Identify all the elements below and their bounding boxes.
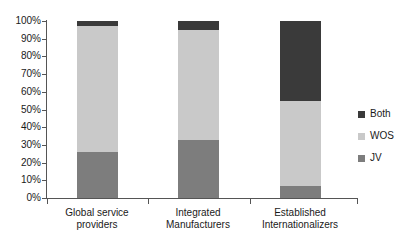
legend-swatch-icon <box>358 155 365 162</box>
legend-item-jv[interactable]: JV <box>358 147 415 169</box>
y-axis-tick-mark <box>42 74 47 75</box>
x-axis-line <box>46 198 358 199</box>
bar-1[interactable] <box>77 21 118 198</box>
x-axis-tick-mark <box>47 199 48 204</box>
x-axis-tick-mark <box>148 199 149 204</box>
legend-label: WOS <box>370 131 394 141</box>
y-axis-tick-mark <box>42 163 47 164</box>
y-axis-tick-mark <box>42 145 47 146</box>
y-axis-tick-label: 50% <box>1 105 41 115</box>
bar-segment-jv[interactable] <box>77 152 118 198</box>
y-axis-tick-label: 30% <box>1 140 41 150</box>
y-axis-tick-label: 90% <box>1 34 41 44</box>
legend-swatch-icon <box>358 111 365 118</box>
legend-label: JV <box>370 153 382 163</box>
legend-item-both[interactable]: Both <box>358 103 415 125</box>
plot-area <box>47 21 357 198</box>
y-axis-tick-label: 10% <box>1 175 41 185</box>
bar-segment-both[interactable] <box>178 21 219 30</box>
bar-segment-jv[interactable] <box>280 186 321 198</box>
bar-3[interactable] <box>280 21 321 198</box>
y-axis-tick-label: 0% <box>1 193 41 203</box>
y-axis-tick-label: 100% <box>1 16 41 26</box>
legend-label: Both <box>370 109 391 119</box>
x-axis-category-label-line: Internationalizers <box>240 219 360 231</box>
y-axis-tick-label: 80% <box>1 51 41 61</box>
y-axis-tick-label: 40% <box>1 122 41 132</box>
bar-segment-both[interactable] <box>280 21 321 101</box>
bar-segment-jv[interactable] <box>178 140 219 198</box>
y-axis-tick-mark <box>42 180 47 181</box>
x-axis-tick-mark <box>357 199 358 204</box>
x-axis-category-label: EstablishedInternationalizers <box>240 207 360 231</box>
bar-2[interactable] <box>178 21 219 198</box>
stacked-bar-chart: 100%90%80%70%60%50%40%30%20%10%0% BothWO… <box>0 0 415 243</box>
y-axis-tick-label: 20% <box>1 158 41 168</box>
x-axis-category-label-line: Established <box>240 207 360 219</box>
bar-segment-wos[interactable] <box>280 101 321 186</box>
y-axis-tick-label: 70% <box>1 69 41 79</box>
bar-segment-wos[interactable] <box>178 30 219 140</box>
y-axis-tick-mark <box>42 110 47 111</box>
y-axis-tick-mark <box>42 127 47 128</box>
bar-segment-both[interactable] <box>77 21 118 26</box>
chart-legend: BothWOSJV <box>358 103 415 169</box>
y-axis-tick-mark <box>42 39 47 40</box>
legend-swatch-icon <box>358 133 365 140</box>
legend-item-wos[interactable]: WOS <box>358 125 415 147</box>
y-axis-tick-mark <box>42 92 47 93</box>
y-axis-tick-labels: 100%90%80%70%60%50%40%30%20%10%0% <box>0 0 41 243</box>
bar-segment-wos[interactable] <box>77 26 118 152</box>
y-axis-tick-mark <box>42 21 47 22</box>
x-axis-tick-mark <box>250 199 251 204</box>
y-axis-tick-label: 60% <box>1 87 41 97</box>
y-axis-tick-mark <box>42 56 47 57</box>
